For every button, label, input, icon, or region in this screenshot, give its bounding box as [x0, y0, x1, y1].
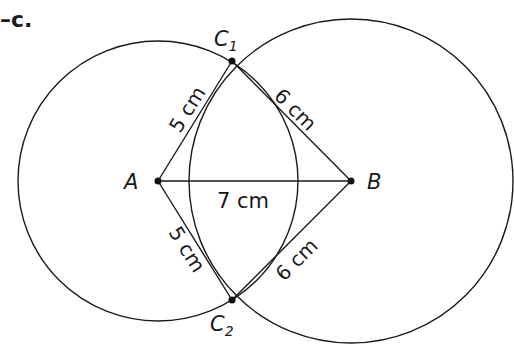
- figure-label: –c.: [0, 7, 32, 32]
- length-bc1: 6 cm: [269, 84, 321, 136]
- label-b: B: [367, 170, 381, 194]
- label-c1: C1: [214, 27, 238, 54]
- point-c1: [229, 58, 236, 65]
- label-a: A: [122, 170, 138, 194]
- length-bc2: 6 cm: [271, 234, 323, 286]
- point-a: [155, 178, 162, 185]
- point-c2: [229, 297, 236, 304]
- length-ac1: 5 cm: [164, 82, 211, 137]
- label-c2: C2: [210, 312, 234, 339]
- point-b: [348, 178, 355, 185]
- length-ab: 7 cm: [217, 189, 269, 213]
- construction-diagram: –c. A B C1 C2 7 cm 5 cm 6 cm 5 cm 6 cm: [0, 0, 514, 358]
